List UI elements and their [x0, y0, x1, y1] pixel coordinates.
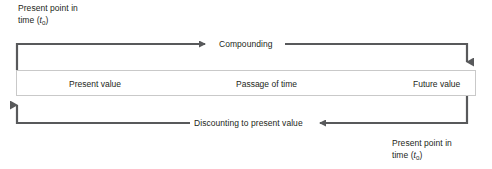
bottom-label-suffix: ) — [419, 150, 422, 160]
compounding-arrow-left-segment — [17, 44, 205, 70]
top-label-prefix: time ( — [18, 15, 40, 25]
present-point-in-time-label-top: Present point in time (t0) — [18, 3, 78, 26]
time-value-of-money-diagram: Present point in time (t0) Compounding P… — [0, 0, 492, 169]
present-point-in-time-label-bottom: Present point in time (t0) — [392, 138, 452, 161]
compounding-arrow-right-segment — [285, 44, 467, 62]
bottom-label-line1: Present point in — [392, 138, 452, 150]
bottom-label-line2: time (t0) — [392, 150, 452, 162]
discounting-arrow-right-segment — [320, 96, 467, 123]
bar-cell-present-value: Present value — [69, 79, 121, 89]
bar-cell-passage-of-time: Passage of time — [236, 79, 297, 89]
top-label-line1: Present point in — [18, 3, 78, 15]
top-label-subscript: 0 — [42, 19, 46, 26]
bar-cell-future-value: Future value — [413, 79, 460, 89]
discounting-arrow-left-segment — [17, 105, 190, 123]
bottom-label-prefix: time ( — [392, 150, 414, 160]
compounding-label: Compounding — [219, 39, 272, 51]
top-label-suffix: ) — [45, 15, 48, 25]
top-label-line2: time (t0) — [18, 15, 78, 27]
timeline-bar: Present value Passage of time Future val… — [16, 70, 476, 96]
discounting-label: Discounting to present value — [194, 118, 303, 130]
bottom-label-subscript: 0 — [416, 154, 420, 161]
